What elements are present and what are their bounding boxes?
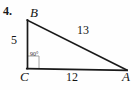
vertex-label-b: B xyxy=(30,6,38,19)
figure-container: 4. B C A 5 12 13 90° xyxy=(0,0,140,90)
angle-label-c: 90° xyxy=(30,51,38,57)
vertex-label-a: A xyxy=(122,70,130,83)
right-angle-marker xyxy=(27,56,39,68)
side-length-label-ba: 13 xyxy=(77,24,89,36)
vertex-label-c: C xyxy=(20,70,29,83)
side-length-label-bc: 5 xyxy=(11,34,17,46)
side-length-label-ca: 12 xyxy=(66,71,78,83)
